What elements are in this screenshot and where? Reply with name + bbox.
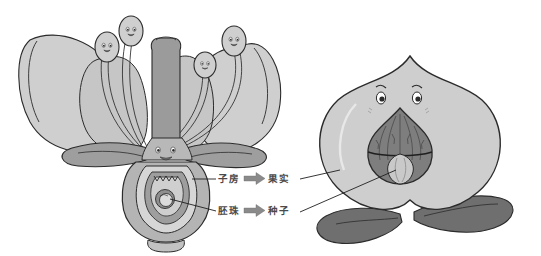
anther-4-with-face [222, 26, 246, 56]
illustration-svg [0, 0, 541, 256]
pistil [151, 37, 180, 142]
figure-canvas: 子房 果实 胚珠 种子 [0, 0, 541, 256]
anther-3-with-face [194, 52, 216, 78]
pistil-style [151, 38, 180, 142]
leaf-left [317, 208, 402, 243]
arrow-ovary-to-fruit [244, 173, 265, 185]
anther-1-with-face [95, 32, 119, 62]
cartoon-flower [19, 16, 281, 252]
label-seed: 种子 [268, 206, 289, 216]
flower-face [142, 138, 192, 160]
flower-head [142, 138, 192, 160]
ovary [122, 162, 209, 252]
anther-2-with-face [119, 16, 143, 46]
label-fruit: 果实 [268, 174, 289, 184]
cartoon-peach [317, 56, 513, 243]
label-ovary: 子房 [218, 174, 239, 184]
label-ovule: 胚珠 [218, 206, 239, 216]
arrow-ovule-to-seed [244, 205, 265, 217]
